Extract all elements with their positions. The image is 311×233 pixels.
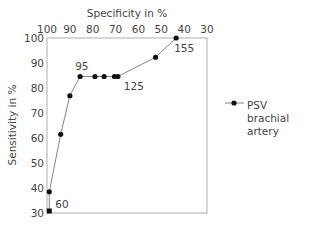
y-tick-label: 80 [31,82,44,94]
y-tick-label: 40 [31,182,44,194]
data-point [47,209,52,214]
series-points [47,35,179,213]
legend-label-line1: PSV brachial [247,99,311,125]
legend-dot-icon [231,100,236,105]
point-annotations: 6095125155 [55,42,194,210]
y-tick-label: 30 [31,207,44,219]
legend-marker [225,100,244,105]
data-point [115,74,120,79]
legend-label: PSV brachial artery [247,99,311,138]
data-point [102,74,107,79]
series-line [49,38,176,211]
x-tick-label: 40 [177,23,190,35]
data-point [67,93,72,98]
point-annotation: 60 [55,198,68,210]
x-tick-label: 80 [86,23,99,35]
y-tick-label: 60 [31,132,44,144]
y-tick-label: 50 [31,157,44,169]
x-tick-label: 70 [109,23,122,35]
data-point [153,55,158,60]
point-annotation: 155 [174,42,194,54]
y-axis-ticks: 30405060708090100 [24,32,44,219]
data-point [174,35,179,40]
point-annotation: 125 [124,80,144,92]
data-point [78,74,83,79]
x-axis-title: Specificity in % [87,7,167,19]
y-axis-title: Sensitivity in % [6,85,18,166]
x-axis-ticks: 10090807060504030 [37,23,214,35]
y-tick-label: 100 [24,32,44,44]
x-tick-label: 30 [200,23,213,35]
x-tick-label: 50 [155,23,168,35]
y-tick-label: 70 [31,107,44,119]
data-point [47,189,52,194]
y-tick-label: 90 [31,57,44,69]
x-tick-label: 60 [132,23,145,35]
data-point [92,74,97,79]
data-point [58,132,63,137]
plot-frame [47,38,207,213]
legend-label-line2: artery [247,125,311,138]
point-annotation: 95 [75,60,88,72]
x-tick-label: 90 [63,23,76,35]
